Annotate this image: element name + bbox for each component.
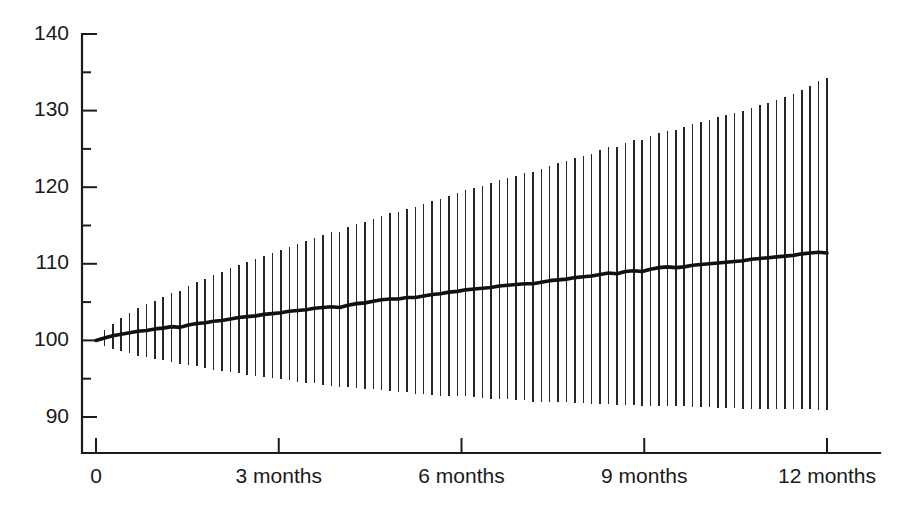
x-axis-tick-label: 3 months — [236, 464, 322, 487]
chart-figure: 90100110120130140 03 months6 months9 mon… — [0, 0, 907, 510]
x-axis-tick-label: 0 — [90, 464, 102, 487]
chart-svg: 90100110120130140 03 months6 months9 mon… — [0, 0, 907, 510]
y-axis-tick-label: 100 — [34, 327, 69, 350]
errorbar-group — [96, 78, 827, 410]
x-axis-tick-labels: 03 months6 months9 months12 months — [90, 464, 876, 487]
y-axis-tick-label: 130 — [34, 97, 69, 120]
y-axis-tick-label: 120 — [34, 174, 69, 197]
y-axis-tick-label: 110 — [36, 250, 69, 273]
x-axis-tick-label: 12 months — [778, 464, 876, 487]
y-axis-tick-label: 140 — [34, 21, 69, 44]
x-axis-tick-label: 6 months — [418, 464, 504, 487]
y-axis-tick-label: 90 — [46, 404, 69, 427]
x-axis-tick-label: 9 months — [601, 464, 687, 487]
y-axis-tick-labels: 90100110120130140 — [34, 21, 69, 427]
